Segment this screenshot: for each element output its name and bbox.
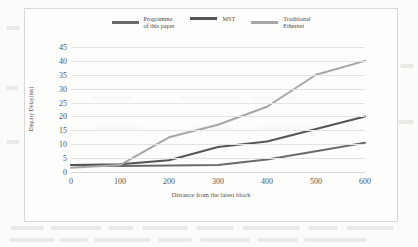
gridline <box>71 103 365 104</box>
x-axis-tick-label: 300 <box>212 177 224 186</box>
x-axis-line <box>71 172 365 173</box>
gridline <box>71 144 365 145</box>
gridline <box>71 75 365 76</box>
x-axis-tick-label: 100 <box>114 177 126 186</box>
y-axis-tick-label: 45 <box>59 43 67 52</box>
y-axis-tick-label: 35 <box>59 70 67 79</box>
gridline <box>71 116 365 117</box>
y-axis-tick-label: 5 <box>63 154 67 163</box>
y-axis-tick-label: 20 <box>59 112 67 121</box>
gridline <box>71 130 365 131</box>
x-axis-tick-label: 400 <box>261 177 273 186</box>
y-axis-tick-label: 15 <box>59 126 67 135</box>
x-axis-tick-label: 500 <box>310 177 322 186</box>
y-axis-tick-label: 0 <box>63 168 67 177</box>
x-axis-tick-label: 0 <box>69 177 73 186</box>
gridline <box>71 61 365 62</box>
gridline <box>71 89 365 90</box>
y-axis-tick-label: 30 <box>59 84 67 93</box>
series-lines <box>71 47 365 172</box>
gridline <box>71 47 365 48</box>
plot-wrapper: 0510152025303540450100200300400500600 En… <box>25 9 397 221</box>
x-axis-tick-label: 200 <box>163 177 175 186</box>
y-axis-tick-label: 25 <box>59 98 67 107</box>
x-axis-tick-label: 600 <box>359 177 371 186</box>
x-axis-title: Distance from the latest block <box>25 191 397 198</box>
y-axis-tick-label: 10 <box>59 140 67 149</box>
plot-area: 0510152025303540450100200300400500600 <box>71 47 365 172</box>
gridline <box>71 158 365 159</box>
chart-figure: Programme of this paper MST Traditional … <box>24 8 398 222</box>
series-line-2 <box>71 61 365 168</box>
y-axis-title: Enquiry Delay(ms) <box>28 87 34 132</box>
y-axis-tick-label: 40 <box>59 56 67 65</box>
